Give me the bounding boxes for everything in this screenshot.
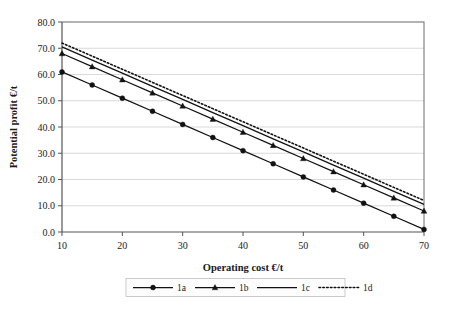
data-point-marker-circle: [180, 122, 185, 127]
x-tick-label: 10: [57, 240, 67, 251]
y-tick-label: 10.0: [38, 200, 56, 211]
y-tick-label: 60.0: [38, 69, 56, 80]
y-tick-label: 40.0: [38, 122, 56, 133]
y-tick-label: 50.0: [38, 95, 56, 106]
y-tick-label: 20.0: [38, 174, 56, 185]
data-point-marker-circle: [151, 285, 156, 290]
y-tick-label: 70.0: [38, 43, 56, 54]
y-tick-label: 0.0: [43, 227, 56, 238]
data-point-marker-circle: [361, 201, 366, 206]
y-tick-label: 80.0: [38, 17, 56, 28]
legend-label-1b: 1b: [239, 283, 249, 293]
x-tick-label: 40: [238, 240, 248, 251]
data-point-marker-circle: [331, 188, 336, 193]
x-axis-title: Operating cost €/t: [203, 262, 284, 273]
data-point-marker-circle: [210, 135, 215, 140]
x-tick-label: 20: [117, 240, 127, 251]
legend-label-1d: 1d: [363, 283, 373, 293]
x-tick-label: 70: [419, 240, 429, 251]
data-point-marker-circle: [60, 69, 65, 74]
data-point-marker-circle: [120, 96, 125, 101]
data-point-marker-circle: [241, 148, 246, 153]
legend-label-1a: 1a: [177, 283, 187, 293]
chart-container: 0.010.020.030.040.050.060.070.080.0 1020…: [0, 0, 457, 313]
data-point-marker-circle: [301, 174, 306, 179]
y-tick-label: 30.0: [38, 148, 56, 159]
legend-label-1c: 1c: [301, 283, 310, 293]
x-tick-label: 30: [178, 240, 188, 251]
data-point-marker-circle: [391, 214, 396, 219]
data-point-marker-circle: [422, 227, 427, 232]
data-point-marker-circle: [271, 161, 276, 166]
data-point-marker-circle: [150, 109, 155, 114]
x-tick-label: 50: [298, 240, 308, 251]
chart-legend: 1a1b1c1d: [126, 279, 373, 297]
data-point-marker-circle: [90, 83, 95, 88]
chart-svg: 0.010.020.030.040.050.060.070.080.0 1020…: [0, 0, 457, 313]
x-tick-label: 60: [359, 240, 369, 251]
y-axis-title: Potential profit €/t: [8, 85, 19, 168]
